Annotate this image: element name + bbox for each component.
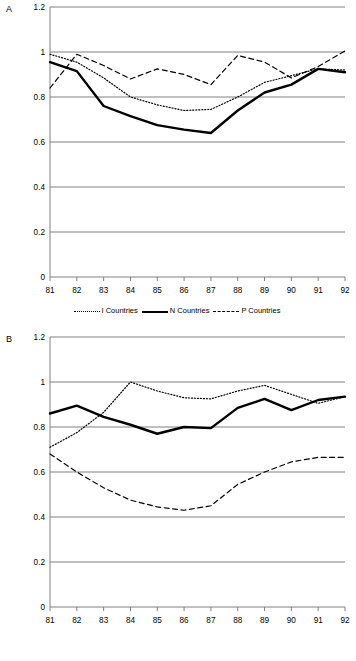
y-tick-label: 0.8 — [34, 93, 46, 102]
x-tick-label: 85 — [153, 286, 163, 295]
series-line — [50, 51, 345, 88]
y-tick-label: 1 — [40, 378, 45, 387]
legend-item-label: I Countries — [102, 306, 138, 316]
x-tick-label: 85 — [153, 616, 163, 625]
x-tick-label: 87 — [206, 286, 216, 295]
y-tick-label: 0.2 — [34, 228, 46, 237]
chart-panel-b: B 00.20.40.60.811.2818283848586878889909… — [0, 330, 356, 661]
y-tick-label: 0.6 — [34, 468, 46, 477]
y-tick-label: 0.4 — [34, 513, 46, 522]
y-tick-label: 0 — [40, 273, 45, 282]
x-tick-label: 91 — [314, 286, 324, 295]
legend-item: I Countries — [74, 306, 138, 316]
x-tick-label: 81 — [45, 616, 55, 625]
legend-item-label: P Countries — [241, 306, 280, 316]
y-tick-label: 1.2 — [34, 3, 46, 12]
legend-solid-line-icon — [142, 307, 168, 315]
plot-area-b: 00.20.40.60.811.281828384858687888990919… — [0, 330, 356, 630]
figure-root: A 00.20.40.60.811.2818283848586878889909… — [0, 0, 356, 661]
series-line — [50, 54, 345, 110]
series-line — [50, 382, 345, 447]
x-tick-label: 92 — [340, 286, 350, 295]
legend-a: I CountriesN CountriesP Countries — [0, 306, 356, 316]
y-tick-label: 1 — [40, 48, 45, 57]
x-tick-label: 88 — [233, 616, 243, 625]
y-tick-label: 0.2 — [34, 558, 46, 567]
plot-area-a: 00.20.40.60.811.281828384858687888990919… — [0, 0, 356, 300]
x-tick-label: 86 — [180, 616, 190, 625]
x-tick-label: 91 — [314, 616, 324, 625]
series-line — [50, 454, 345, 510]
legend-dashed-line-icon — [213, 307, 239, 315]
x-tick-label: 83 — [99, 286, 109, 295]
x-tick-label: 89 — [260, 286, 270, 295]
y-tick-label: 0 — [40, 603, 45, 612]
x-tick-label: 89 — [260, 616, 270, 625]
x-tick-label: 86 — [180, 286, 190, 295]
chart-panel-a: A 00.20.40.60.811.2818283848586878889909… — [0, 0, 356, 330]
legend-item: N Countries — [142, 306, 210, 316]
y-tick-label: 1.2 — [34, 333, 46, 342]
y-tick-label: 0.4 — [34, 183, 46, 192]
legend-item-label: N Countries — [170, 306, 210, 316]
x-tick-label: 82 — [72, 616, 82, 625]
x-tick-label: 83 — [99, 616, 109, 625]
series-line — [50, 397, 345, 434]
x-tick-label: 84 — [126, 616, 136, 625]
x-tick-label: 88 — [233, 286, 243, 295]
legend-dotted-line-icon — [74, 307, 100, 315]
x-tick-label: 90 — [287, 616, 297, 625]
x-tick-label: 82 — [72, 286, 82, 295]
x-tick-label: 84 — [126, 286, 136, 295]
legend-item: P Countries — [213, 306, 280, 316]
y-tick-label: 0.6 — [34, 138, 46, 147]
x-tick-label: 81 — [45, 286, 55, 295]
x-tick-label: 90 — [287, 286, 297, 295]
x-tick-label: 92 — [340, 616, 350, 625]
x-tick-label: 87 — [206, 616, 216, 625]
y-tick-label: 0.8 — [34, 423, 46, 432]
